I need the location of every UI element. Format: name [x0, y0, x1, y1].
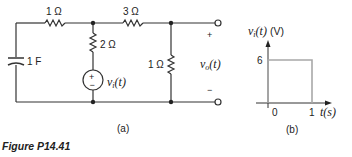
tick-label-0: 0	[272, 107, 278, 118]
label-r2: 2 Ω	[100, 39, 116, 50]
junction-node-3	[91, 100, 95, 104]
junction-node-2	[169, 21, 173, 25]
subfig-b-label: (b)	[286, 124, 298, 135]
output-terminal-plus	[215, 20, 221, 26]
junction-node-4	[169, 100, 173, 104]
resistor-r2	[90, 33, 96, 52]
tick-label-6: 6	[257, 55, 263, 66]
label-r1: 1 Ω	[46, 6, 62, 17]
waveform-plot: 6 0 1 vi(t)(V) t(s) (b)	[248, 24, 336, 135]
label-r3: 3 Ω	[123, 6, 139, 17]
resistor-r4	[168, 55, 174, 74]
output-terminal-minus	[215, 99, 221, 105]
x-axis-label: t(s)	[320, 105, 336, 119]
output-minus-sign: −	[207, 85, 212, 95]
label-vi: vi(t)	[107, 75, 126, 90]
resistor-r1	[45, 20, 65, 26]
y-axis-arrow-icon	[266, 40, 271, 47]
figure-canvas: 1 Ω 3 Ω 2 Ω 1 Ω 1 F + − vi(t) + vo(t) − …	[0, 0, 352, 157]
label-r4: 1 Ω	[148, 59, 164, 70]
y-axis-label: vi(t)(V)	[248, 24, 284, 39]
output-plus-sign: +	[207, 30, 212, 40]
figure-caption: Figure P14.41	[2, 140, 70, 152]
label-vo: vo(t)	[200, 57, 221, 72]
junction-node-1	[91, 21, 95, 25]
tick-label-1: 1	[309, 107, 315, 118]
resistor-r3	[123, 20, 143, 26]
source-minus-sign: −	[90, 80, 95, 90]
capacitor-c1	[8, 58, 24, 65]
subfig-a-label: (a)	[117, 123, 129, 134]
label-c1: 1 F	[27, 56, 41, 67]
pulse-waveform	[268, 60, 312, 103]
